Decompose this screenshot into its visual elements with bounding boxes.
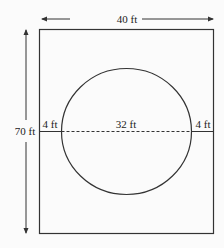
field-diagram: 40 ft 70 ft 4 ft 32 ft 4 ft xyxy=(0,0,224,248)
height-dimension: 70 ft xyxy=(15,30,35,233)
width-label: 40 ft xyxy=(117,13,137,25)
diameter-label: 32 ft xyxy=(116,118,136,130)
height-label: 70 ft xyxy=(15,125,35,137)
right-gap-label: 4 ft xyxy=(196,118,211,130)
left-gap-label: 4 ft xyxy=(43,118,58,130)
width-dimension: 40 ft xyxy=(42,13,213,25)
